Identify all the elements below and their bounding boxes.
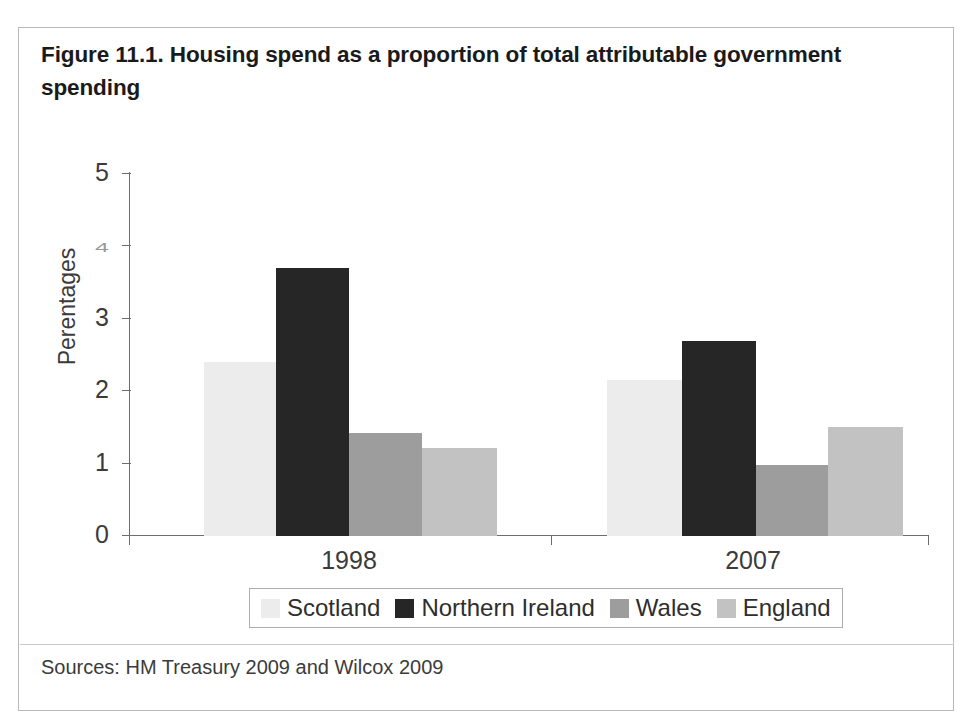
bar-wales-1998 [349, 433, 422, 536]
figure-title: Figure 11.1. Housing spend as a proporti… [41, 38, 871, 104]
legend-swatch-icon [261, 599, 280, 618]
legend-swatch-icon [610, 599, 629, 618]
chart-legend: ScotlandNorthern IrelandWalesEngland [249, 588, 843, 628]
bar-england-2007 [828, 427, 903, 536]
legend-label: Scotland [287, 596, 380, 620]
x-axis-start-tick [129, 535, 130, 545]
legend-item-scotland: Scotland [261, 596, 380, 620]
bar-wales-2007 [756, 465, 828, 536]
legend-item-northern-ireland: Northern Ireland [395, 596, 594, 620]
legend-item-wales: Wales [610, 596, 702, 620]
source-divider [20, 644, 954, 645]
bar-scotland-1998 [204, 362, 276, 536]
legend-swatch-icon [717, 599, 736, 618]
bar-series-layer [19, 128, 955, 536]
figure-container: Figure 11.1. Housing spend as a proporti… [18, 27, 954, 711]
legend-label: Northern Ireland [421, 596, 594, 620]
bar-northern-ireland-2007 [682, 341, 756, 536]
bar-england-1998 [422, 448, 497, 536]
source-note: Sources: HM Treasury 2009 and Wilcox 200… [41, 656, 443, 679]
legend-label: Wales [636, 596, 702, 620]
x-axis-label-2007: 2007 [653, 546, 853, 575]
x-axis-label-1998: 1998 [249, 546, 449, 575]
legend-item-england: England [717, 596, 831, 620]
legend-swatch-icon [395, 599, 414, 618]
chart-plot-area: Perentages 543210 19982007 [19, 128, 955, 568]
bar-northern-ireland-1998 [276, 268, 349, 536]
bar-scotland-2007 [607, 380, 682, 536]
x-axis-end-tick [928, 535, 929, 545]
x-axis-group-divider-tick [551, 535, 552, 545]
legend-label: England [743, 596, 831, 620]
